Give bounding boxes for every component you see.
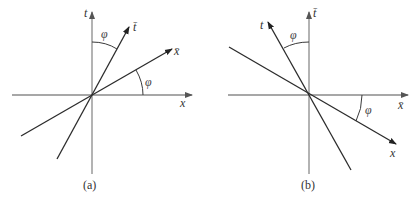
x-bar-label: x̄ (397, 98, 404, 112)
x-axis-label: x (179, 96, 186, 110)
angle-arc-top (92, 42, 117, 49)
x-label: x (389, 146, 396, 160)
phi-label-top: φ (101, 27, 108, 41)
phi-label-right: φ (365, 103, 372, 117)
caption-b: (b) (301, 178, 315, 192)
x-bar-axis (21, 49, 172, 136)
t-label: t (260, 18, 264, 32)
spacetime-diagrams: t x t̄ x̄ φ φ (a) t̄ x̄ t x φ φ (b) (0, 0, 415, 197)
angle-arc-top (284, 42, 309, 48)
t-bar-label: t̄ (313, 6, 317, 20)
angle-arc-right (356, 95, 362, 121)
phi-label-right: φ (145, 75, 152, 89)
panel-b: t̄ x̄ t x φ φ (b) (228, 6, 408, 192)
angle-arc-right (136, 70, 143, 95)
x-bar-label: x̄ (173, 44, 180, 58)
panel-a: t x t̄ x̄ φ φ (a) (12, 6, 192, 192)
t-bar-label: t̄ (133, 20, 137, 34)
t-axis-label: t (84, 6, 88, 20)
caption-a: (a) (83, 178, 96, 192)
t-bar-axis (57, 27, 129, 159)
phi-label-top: φ (290, 28, 297, 42)
